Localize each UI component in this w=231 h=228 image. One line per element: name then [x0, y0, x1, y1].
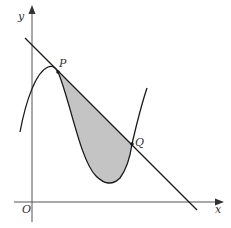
x-axis-label: x: [215, 203, 222, 216]
shaded-region: [58, 72, 132, 183]
y-axis-label: y: [17, 10, 25, 23]
diagram-svg: y x O P Q: [0, 0, 231, 228]
point-q-dot: [130, 142, 134, 146]
y-axis-arrow-icon: [29, 5, 36, 14]
straight-line: [25, 38, 197, 210]
point-q-label: Q: [135, 136, 144, 149]
point-p-dot: [56, 70, 60, 74]
diagram-canvas: y x O P Q: [0, 0, 231, 228]
origin-label: O: [22, 203, 31, 216]
point-p-label: P: [58, 57, 67, 70]
